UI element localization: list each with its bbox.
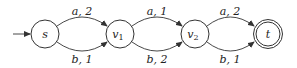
edge-label: a, 2 — [220, 5, 241, 18]
edge-label: b, 2 — [146, 53, 167, 66]
edge-s-v1-bottom — [57, 42, 107, 51]
edge-label: b, 1 — [219, 53, 240, 66]
edge-v2-t-bottom — [207, 42, 254, 51]
node-v2: v2 — [181, 20, 209, 48]
edge-label: a, 1 — [147, 5, 168, 18]
automaton-diagram: a, 2 b, 1 a, 1 b, 2 a, 2 b, 1 s v1 v2 t — [0, 0, 297, 68]
edge-v2-t-top — [207, 17, 254, 26]
node-label: s — [42, 28, 48, 41]
node-label: t — [266, 28, 271, 41]
node-v1: v1 — [106, 20, 134, 48]
edge-label: a, 2 — [72, 5, 93, 18]
edge-s-v1-top — [57, 17, 107, 26]
edge-label: b, 1 — [71, 53, 92, 66]
edge-v1-v2-top — [132, 17, 182, 26]
edge-v1-v2-bottom — [132, 42, 182, 51]
node-t-accepting: t — [254, 20, 283, 49]
node-s: s — [31, 20, 59, 48]
